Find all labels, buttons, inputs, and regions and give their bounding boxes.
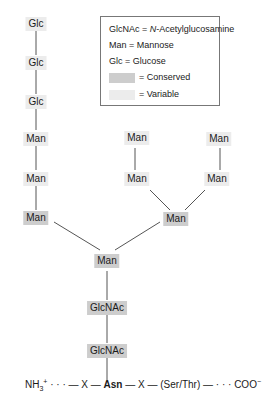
variable-swatch — [109, 90, 135, 100]
man-node-mid-1: Man — [124, 131, 149, 145]
man-node-left-3: Man — [23, 211, 48, 225]
man-node-mid-2: Man — [124, 172, 149, 186]
legend-glc: Glc = Glucose — [109, 55, 166, 67]
man-node-left-1: Man — [23, 132, 48, 146]
glc-node-2: Glc — [26, 56, 47, 70]
legend-variable: = Variable — [109, 88, 179, 100]
conserved-swatch — [109, 73, 135, 83]
glcnac-node-1: GlcNAc — [87, 301, 127, 315]
peptide-sequence: NH3+ · · · — X — Asn — X — (Ser/Thr) — ·… — [25, 378, 261, 392]
glc-node-3: Glc — [26, 95, 47, 109]
legend-conserved: = Conserved — [109, 71, 190, 83]
man-node-branch: Man — [163, 212, 188, 226]
legend-glcnac: GlcNAc = N-Acetylglucosamine — [109, 23, 234, 35]
legend-man: Man = Mannose — [109, 39, 174, 51]
man-node-left-2: Man — [23, 172, 48, 186]
glc-node-1: Glc — [26, 17, 47, 31]
man-node-right-2: Man — [204, 172, 229, 186]
legend-box: GlcNAc = N-Acetylglucosamine Man = Manno… — [100, 16, 220, 106]
glcnac-node-2: GlcNAc — [87, 344, 127, 358]
man-node-right-1: Man — [206, 132, 231, 146]
man-node-core: Man — [94, 254, 119, 268]
